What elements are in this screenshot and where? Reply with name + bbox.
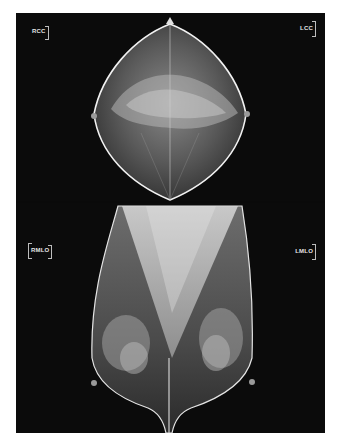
- mlo-view: [91, 206, 255, 433]
- view-label-rcc: RCC: [29, 26, 49, 36]
- view-label-lmlo: LMLO: [292, 246, 316, 256]
- view-label-lcc: LCC: [297, 23, 316, 33]
- view-label-rmlo: RMLO: [28, 245, 52, 255]
- mammogram-image: [16, 13, 325, 433]
- mammogram-panel: RCC LCC RMLO LMLO: [16, 13, 325, 433]
- cc-view: [91, 17, 250, 200]
